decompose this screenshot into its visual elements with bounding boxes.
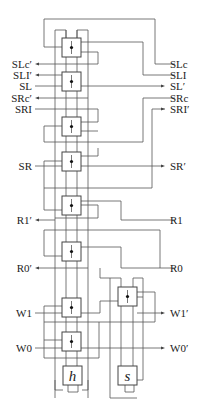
circuit-diagram: h s SLc′ SLI′ SL SRc′ SRI SR R1′ R0′ W1 … [0,0,199,414]
label-r0-prime: R0′ [17,262,32,274]
cell-3 [62,117,81,136]
cell-5 [62,196,81,215]
cell-4 [62,152,81,171]
sl-through-wire [81,85,165,88]
sli-wire [81,42,175,75]
right-labels: SLc SLI SL′ SRc SRI′ SR′ R1 R0 W1′ W0′ [170,58,190,354]
label-sri-prime: SRI′ [170,103,190,115]
cell-2 [62,72,81,91]
s-glyph: s [125,368,131,384]
w1-wires [35,301,165,315]
w0-wires [35,322,165,392]
right-column-wires [44,268,155,398]
src-sri-wires [44,98,175,188]
cell-6 [62,242,81,261]
label-sr: SR [19,160,33,172]
cell-7 [62,298,81,317]
left-labels: SLc′ SLI′ SL SRc′ SRI SR R1′ R0′ W1 W0 [11,58,32,354]
h-box: h [63,366,82,385]
cell-9 [118,287,137,306]
h-glyph: h [69,368,77,384]
label-r1-prime: R1′ [17,214,32,226]
r0-wires [35,230,175,270]
label-w0: W0 [16,342,32,354]
label-w0-prime: W0′ [170,342,188,354]
label-sl-prime: SL′ [170,80,185,92]
cell-8 [62,332,81,351]
label-w1-prime: W1′ [170,307,188,319]
label-w1: W1 [16,307,32,319]
s-box: s [118,366,137,385]
label-sr-prime: SR′ [170,160,186,172]
label-r0: R0 [170,262,183,274]
cell-1 [62,38,81,57]
label-sl: SL [19,80,32,92]
sr-through-wire [35,148,165,168]
label-sri: SRI [15,103,32,115]
r1-wires [35,188,175,222]
label-r1: R1 [170,214,183,226]
